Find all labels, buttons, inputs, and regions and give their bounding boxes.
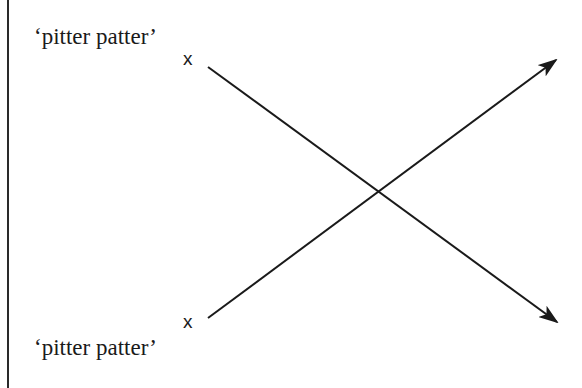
upward-arrow [208,60,556,318]
crossing-arrows [0,0,582,388]
downward-arrow [208,67,557,322]
diagram-canvas: ‘pitter patter’ x ‘pitter patter’ x [0,0,582,388]
